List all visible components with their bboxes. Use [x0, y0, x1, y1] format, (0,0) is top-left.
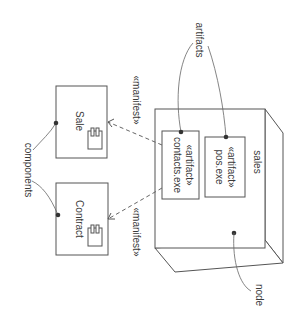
component-icon: [88, 128, 102, 149]
anchor-dot: [224, 135, 229, 140]
dependency-label: «manifest»: [131, 208, 142, 257]
callout-components: components: [23, 121, 60, 218]
callout-label: node: [254, 284, 265, 307]
anchor-dot: [56, 213, 61, 218]
artifact-stereotype: «artifact»: [226, 146, 237, 188]
component-contract: Contract: [56, 183, 108, 255]
artifact-contacts-exe: «artifact» contacts.exe: [162, 131, 199, 199]
artifact-stereotype: «artifact»: [184, 144, 195, 186]
deployment-diagram: sales «artifact» pos.exe «artifact» cont…: [0, 0, 297, 319]
dependency-manifest-contract: «manifest»: [108, 188, 162, 257]
dependency-label: «manifest»: [131, 76, 142, 125]
component-name: Contract: [74, 200, 85, 238]
leader-line: [33, 123, 56, 150]
component-sale: Sale: [56, 86, 107, 158]
artifact-pos-exe: «artifact» pos.exe: [205, 137, 245, 197]
node-name: sales: [252, 150, 263, 173]
anchor-dot: [54, 121, 59, 126]
callout-label: components: [23, 143, 34, 197]
leader-line: [32, 181, 58, 215]
callout-label: artifacts: [194, 22, 205, 57]
node-side-face: [265, 109, 283, 263]
artifact-name: contacts.exe: [172, 137, 183, 194]
component-icon: [88, 225, 102, 246]
artifact-name: pos.exe: [214, 149, 225, 184]
dependency-manifest-sale: «manifest»: [108, 76, 162, 145]
arrowhead-icon: [108, 213, 115, 219]
anchor-dot: [179, 130, 184, 135]
arrowhead-icon: [108, 119, 114, 127]
component-name: Sale: [74, 111, 85, 131]
dashed-arrow: [108, 122, 162, 145]
